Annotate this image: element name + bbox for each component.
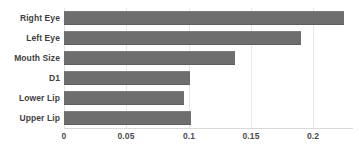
bar-row bbox=[64, 108, 353, 128]
bar-row bbox=[64, 88, 353, 108]
category-label-right-eye: Right Eye bbox=[20, 8, 60, 28]
category-label-d1: D1 bbox=[49, 68, 60, 88]
category-axis-labels: Right Eye Left Eye Mouth Size D1 Lower L… bbox=[0, 8, 60, 128]
bar-mouth-size bbox=[64, 51, 235, 65]
tick-label-0: 0 bbox=[62, 131, 67, 141]
bar-row bbox=[64, 68, 353, 88]
bar-row bbox=[64, 48, 353, 68]
category-label-upper-lip: Upper Lip bbox=[19, 108, 60, 128]
plot-area bbox=[64, 8, 353, 128]
bar-d1 bbox=[64, 71, 190, 85]
bar-right-eye bbox=[64, 11, 344, 25]
value-axis-tick-labels: 0 0.05 0.1 0.15 0.2 bbox=[0, 131, 359, 151]
category-label-lower-lip: Lower Lip bbox=[19, 88, 60, 108]
category-axis-line bbox=[64, 128, 353, 129]
bar-upper-lip bbox=[64, 111, 191, 125]
bar-series bbox=[64, 8, 353, 128]
category-label-left-eye: Left Eye bbox=[26, 28, 60, 48]
bar-row bbox=[64, 8, 353, 28]
bar-left-eye bbox=[64, 31, 301, 45]
tick-label-0.05: 0.05 bbox=[118, 131, 135, 141]
category-label-mouth-size: Mouth Size bbox=[14, 48, 60, 68]
tick-label-0.1: 0.1 bbox=[183, 131, 195, 141]
tick-label-0.15: 0.15 bbox=[243, 131, 260, 141]
tick-label-0.2: 0.2 bbox=[307, 131, 319, 141]
bar-chart: Right Eye Left Eye Mouth Size D1 Lower L… bbox=[0, 0, 359, 157]
bar-row bbox=[64, 28, 353, 48]
bar-lower-lip bbox=[64, 91, 184, 105]
